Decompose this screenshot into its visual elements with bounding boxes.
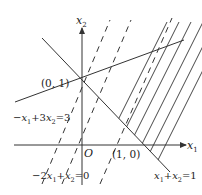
label-neg-2x1-plus-x2-eq-0: −2x1+x2=0 — [32, 170, 89, 184]
line-x1-plus-x2-eq-1 — [42, 38, 170, 172]
x1-axis-label: x1 — [187, 139, 198, 154]
point-label-0-1: (0, 1) — [41, 77, 69, 89]
hatched-region — [92, 22, 202, 172]
origin-label: O — [84, 147, 93, 160]
x2-axis-label: x2 — [76, 14, 87, 29]
linear-programming-diagram: x2 x1 O (0, 1) (1, 0) −x1+3x2=3 −2x1+x2=… — [0, 0, 202, 195]
point-label-1-0: (1, 0) — [112, 148, 140, 160]
label-neg-x1-plus-3x2-eq-3: −x1+3x2=3 — [13, 112, 70, 126]
label-x1-plus-x2-eq-1: x1+x2=1 — [154, 170, 197, 184]
dashed-objective-lines — [42, 18, 172, 184]
